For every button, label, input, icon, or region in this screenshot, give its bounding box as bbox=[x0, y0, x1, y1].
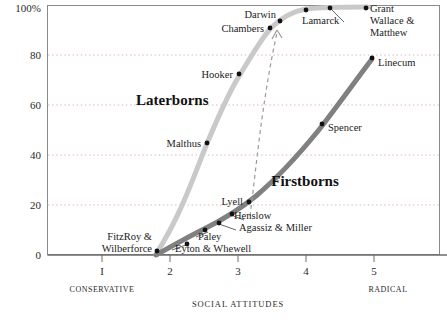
y-tick-80: 80 bbox=[30, 49, 42, 61]
y-tick-40: 40 bbox=[30, 149, 42, 161]
x-axis-title: SOCIAL ATTITUDES bbox=[192, 299, 284, 309]
point-spencer bbox=[320, 122, 325, 127]
x-tick-3: 3 bbox=[235, 265, 241, 277]
point-lyell bbox=[247, 200, 252, 205]
x-axis-ticks bbox=[102, 255, 374, 262]
y-tick-100: 100% bbox=[15, 2, 41, 14]
label-fitzroy-line2: Wilberforce bbox=[102, 243, 153, 254]
point-fitzroy-wilberforce bbox=[155, 249, 160, 254]
x-tick-5: 5 bbox=[371, 265, 377, 277]
label-spencer: Spencer bbox=[328, 122, 362, 133]
point-chambers bbox=[268, 26, 273, 31]
y-tick-20: 20 bbox=[30, 199, 42, 211]
point-lamarck bbox=[304, 8, 309, 13]
chart-svg: 100% 80 60 40 20 0 I 2 3 4 5 CONSERVATIV… bbox=[0, 0, 447, 324]
point-hooker bbox=[237, 72, 242, 77]
label-henslow: Henslow bbox=[234, 210, 272, 221]
label-hooker: Hooker bbox=[202, 69, 234, 80]
point-grant bbox=[364, 6, 369, 11]
label-malthus: Malthus bbox=[167, 138, 201, 149]
label-paley: Paley bbox=[198, 231, 222, 242]
label-linecum: Linecum bbox=[378, 57, 415, 68]
label-eyton-whewell: Eyton & Whewell bbox=[175, 243, 251, 254]
label-wallace-line1: Wallace & bbox=[370, 15, 414, 26]
series-label-laterborns: Laterborns bbox=[136, 92, 209, 108]
label-lamarck: Lamarck bbox=[302, 15, 340, 26]
y-tick-60: 60 bbox=[30, 99, 42, 111]
chart-figure: 100% 80 60 40 20 0 I 2 3 4 5 CONSERVATIV… bbox=[0, 0, 447, 324]
label-lyell: Lyell bbox=[221, 196, 243, 207]
label-wallace-line2: Matthew bbox=[370, 27, 408, 38]
label-grant: Grant bbox=[370, 3, 394, 14]
series-label-firstborns: Firstborns bbox=[271, 173, 339, 189]
label-darwin: Darwin bbox=[245, 9, 277, 20]
point-linecum bbox=[370, 56, 375, 61]
x-tick-2: 2 bbox=[167, 265, 173, 277]
x-tick-4: 4 bbox=[303, 265, 309, 277]
point-wallace-matthew bbox=[328, 6, 333, 11]
x-axis-label-radical: RADICAL bbox=[368, 285, 407, 294]
point-malthus bbox=[205, 141, 210, 146]
label-agassiz-miller: Agassiz & Miller bbox=[239, 222, 312, 233]
label-fitzroy-line1: FitzRoy & bbox=[107, 231, 152, 242]
x-axis-label-conservative: CONSERVATIVE bbox=[70, 285, 135, 294]
y-tick-0: 0 bbox=[36, 249, 42, 261]
point-agassiz-miller bbox=[217, 221, 222, 226]
x-tick-1: I bbox=[100, 265, 104, 277]
label-chambers: Chambers bbox=[221, 23, 264, 34]
point-darwin bbox=[278, 19, 283, 24]
